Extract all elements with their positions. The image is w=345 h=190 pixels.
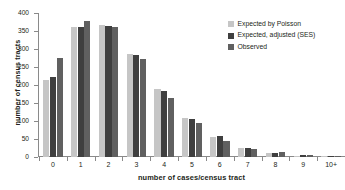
y-axis-tick: 350 bbox=[34, 31, 38, 32]
legend-item: Observed bbox=[228, 42, 315, 52]
y-axis-tick: 50 bbox=[34, 139, 38, 140]
bar bbox=[50, 77, 56, 157]
y-axis-tick-label: 200 bbox=[18, 81, 29, 88]
bar bbox=[245, 148, 251, 157]
y-axis-tick-label: 400 bbox=[18, 9, 29, 16]
bar bbox=[78, 27, 84, 157]
bar-chart: number of census tracts 0501001502002503… bbox=[0, 0, 345, 190]
plot-area: 050100150200250300350400 bbox=[38, 13, 225, 157]
bar bbox=[127, 54, 133, 157]
x-axis-tick-label: 10+ bbox=[325, 161, 337, 168]
bar bbox=[266, 153, 272, 157]
y-axis-tick-label: 300 bbox=[18, 45, 29, 52]
bar bbox=[321, 156, 327, 157]
x-axis-tick bbox=[67, 157, 68, 161]
bar bbox=[140, 59, 146, 157]
bar-group bbox=[43, 13, 62, 157]
bar bbox=[210, 137, 216, 157]
y-axis-tick: 250 bbox=[34, 67, 38, 68]
x-axis-tick bbox=[206, 157, 207, 161]
bar-group bbox=[99, 13, 118, 157]
bar bbox=[335, 156, 341, 157]
x-axis-tick-label: 2 bbox=[107, 161, 111, 168]
legend-label: Observed bbox=[238, 44, 267, 51]
bar bbox=[182, 118, 188, 157]
x-axis-title: number of cases/census tract bbox=[38, 173, 345, 182]
legend-item: Expected by Poisson bbox=[228, 19, 315, 29]
legend-swatch-icon bbox=[228, 21, 234, 27]
x-axis-tick-label: 0 bbox=[51, 161, 55, 168]
x-axis-tick-label: 9 bbox=[301, 161, 305, 168]
x-axis-tick-label: 4 bbox=[162, 161, 166, 168]
bar bbox=[196, 123, 202, 157]
y-axis-tick-label: 350 bbox=[18, 27, 29, 34]
y-axis-tick: 150 bbox=[34, 103, 38, 104]
x-axis-tick-label: 8 bbox=[274, 161, 278, 168]
bar bbox=[57, 58, 63, 157]
legend-swatch-icon bbox=[228, 33, 234, 39]
bar-group bbox=[321, 13, 340, 157]
x-axis-tick bbox=[150, 157, 151, 161]
bar bbox=[84, 21, 90, 157]
y-axis-tick: 0 bbox=[34, 157, 38, 158]
bar bbox=[238, 148, 244, 157]
x-axis-tick-label: 5 bbox=[190, 161, 194, 168]
bar-group bbox=[154, 13, 173, 157]
legend-item: Expected, adjusted (SES) bbox=[228, 31, 315, 41]
bar-group bbox=[210, 13, 229, 157]
x-axis-tick bbox=[262, 157, 263, 161]
legend-swatch-icon bbox=[228, 44, 234, 50]
y-axis-tick: 400 bbox=[34, 13, 38, 14]
bar-group bbox=[127, 13, 146, 157]
y-axis-tick-label: 250 bbox=[18, 63, 29, 70]
y-axis-tick-label: 100 bbox=[18, 117, 29, 124]
chart-legend: Expected by PoissonExpected, adjusted (S… bbox=[228, 19, 315, 54]
bar bbox=[294, 156, 300, 157]
x-axis-tick-label: 6 bbox=[218, 161, 222, 168]
bar bbox=[251, 149, 257, 157]
y-axis-tick-label: 0 bbox=[25, 153, 29, 160]
y-axis-tick: 200 bbox=[34, 85, 38, 86]
x-axis-tick bbox=[317, 157, 318, 161]
y-axis-tick-label: 150 bbox=[18, 99, 29, 106]
bar bbox=[112, 27, 118, 157]
bar bbox=[105, 26, 111, 157]
x-axis-tick bbox=[234, 157, 235, 161]
bar bbox=[99, 25, 105, 157]
bar bbox=[71, 27, 77, 157]
x-axis-tick bbox=[39, 157, 40, 161]
legend-label: Expected, adjusted (SES) bbox=[238, 32, 316, 39]
bar bbox=[154, 89, 160, 157]
bar-group bbox=[71, 13, 90, 157]
x-axis-tick bbox=[289, 157, 290, 161]
x-axis-tick bbox=[122, 157, 123, 161]
x-axis-tick bbox=[178, 157, 179, 161]
bar bbox=[223, 141, 229, 157]
bar bbox=[217, 136, 223, 157]
bar bbox=[279, 152, 285, 157]
bar bbox=[307, 155, 313, 157]
y-axis-tick: 300 bbox=[34, 49, 38, 50]
bar bbox=[161, 91, 167, 157]
bar bbox=[133, 55, 139, 157]
x-axis-tick bbox=[95, 157, 96, 161]
bar bbox=[168, 98, 174, 157]
bar-group bbox=[182, 13, 201, 157]
bar bbox=[300, 155, 306, 157]
x-axis-tick-label: 1 bbox=[79, 161, 83, 168]
bar bbox=[272, 153, 278, 157]
legend-label: Expected by Poisson bbox=[238, 21, 301, 28]
bar bbox=[328, 156, 334, 157]
y-axis-tick: 100 bbox=[34, 121, 38, 122]
x-axis-tick-label: 3 bbox=[134, 161, 138, 168]
bar bbox=[43, 80, 49, 157]
bar bbox=[189, 119, 195, 157]
y-axis-tick-label: 50 bbox=[22, 135, 29, 142]
x-axis-tick-label: 7 bbox=[246, 161, 250, 168]
